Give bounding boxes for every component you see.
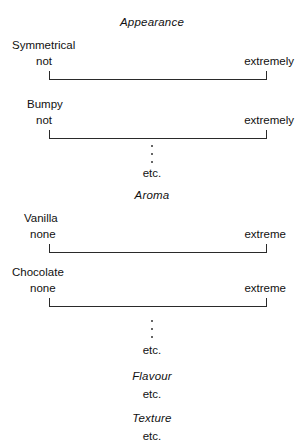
rating-scale-chocolate[interactable]	[49, 298, 267, 307]
attribute-symmetrical: Symmetrical not extremely	[0, 39, 304, 85]
attribute-chocolate: Chocolate none extreme	[0, 266, 304, 312]
attribute-bumpy: Bumpy not extremely	[0, 98, 304, 144]
scale-tick-right-icon	[266, 71, 267, 80]
rating-scale-bumpy[interactable]	[49, 130, 267, 139]
ellipsis-dot-icon	[151, 336, 153, 338]
anchor-low-bumpy: not	[36, 114, 52, 126]
anchor-low-chocolate: none	[30, 282, 56, 294]
section-heading-appearance: Appearance	[0, 16, 304, 28]
attribute-label-vanilla: Vanilla	[24, 212, 58, 224]
ellipsis-dot-icon	[151, 328, 153, 330]
section-heading-flavour: Flavour	[0, 370, 304, 382]
rating-scale-symmetrical[interactable]	[49, 71, 267, 80]
scale-tick-right-icon	[266, 244, 267, 253]
attribute-label-symmetrical: Symmetrical	[12, 39, 75, 51]
continuation-label-aroma: etc.	[0, 344, 304, 356]
continuation-label-appearance: etc.	[0, 167, 304, 179]
continuation-label-texture: etc.	[0, 430, 304, 442]
anchor-high-bumpy: extremely	[244, 114, 294, 126]
anchor-high-symmetrical: extremely	[244, 55, 294, 67]
attribute-label-chocolate: Chocolate	[12, 266, 64, 278]
attribute-vanilla: Vanilla none extreme	[0, 212, 304, 258]
anchor-high-vanilla: extreme	[244, 228, 286, 240]
ellipsis-dot-icon	[151, 153, 153, 155]
section-heading-aroma: Aroma	[0, 189, 304, 201]
scale-line	[49, 306, 267, 307]
anchor-low-symmetrical: not	[36, 55, 52, 67]
scale-tick-right-icon	[266, 130, 267, 139]
attribute-label-bumpy: Bumpy	[27, 98, 63, 110]
ellipsis-dot-icon	[151, 145, 153, 147]
ellipsis-dot-icon	[151, 320, 153, 322]
rating-scale-vanilla[interactable]	[49, 244, 267, 253]
ballot-sheet: Appearance Symmetrical not extremely Bum…	[0, 0, 304, 444]
section-heading-texture: Texture	[0, 412, 304, 424]
scale-line	[49, 252, 267, 253]
scale-line	[49, 138, 267, 139]
vertical-ellipsis-appearance	[0, 145, 304, 169]
scale-line	[49, 79, 267, 80]
anchor-low-vanilla: none	[30, 228, 56, 240]
ellipsis-dot-icon	[151, 161, 153, 163]
vertical-ellipsis-aroma	[0, 320, 304, 344]
anchor-high-chocolate: extreme	[244, 282, 286, 294]
continuation-label-flavour: etc.	[0, 388, 304, 400]
scale-tick-right-icon	[266, 298, 267, 307]
